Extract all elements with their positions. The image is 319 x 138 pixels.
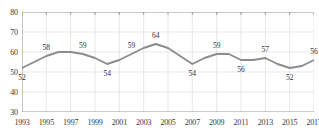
x-tick-label: 2017 bbox=[306, 118, 319, 127]
line-chart: 304050607080 525859545964545956575256 19… bbox=[0, 0, 319, 138]
data-point-label: 52 bbox=[286, 73, 294, 82]
data-point-label: 54 bbox=[103, 69, 111, 78]
x-tick-label: 2005 bbox=[160, 118, 175, 127]
y-tick-label: 40 bbox=[10, 88, 18, 97]
data-point-label: 64 bbox=[152, 31, 160, 40]
x-tick-label: 1999 bbox=[87, 118, 102, 127]
x-tick-label: 2001 bbox=[112, 118, 127, 127]
chart-canvas bbox=[22, 12, 314, 112]
data-point-label: 59 bbox=[79, 41, 87, 50]
y-tick-label: 70 bbox=[10, 28, 18, 37]
plot-area: 525859545964545956575256 bbox=[22, 12, 314, 112]
x-tick-label: 2011 bbox=[234, 118, 249, 127]
x-tick-label: 1995 bbox=[39, 118, 54, 127]
x-axis-labels: 1993199519971999200120032005200720092011… bbox=[22, 118, 314, 132]
x-tick-label: 1993 bbox=[14, 118, 29, 127]
x-tick-label: 2009 bbox=[209, 118, 224, 127]
x-tick-label: 2007 bbox=[185, 118, 200, 127]
data-point-label: 56 bbox=[310, 47, 318, 56]
y-axis-labels: 304050607080 bbox=[0, 12, 20, 112]
x-tick-label: 2015 bbox=[282, 118, 297, 127]
y-tick-label: 80 bbox=[10, 8, 18, 17]
data-point-label: 58 bbox=[43, 43, 51, 52]
data-point-label: 59 bbox=[128, 41, 136, 50]
data-point-label: 59 bbox=[213, 41, 221, 50]
data-point-label: 57 bbox=[262, 45, 270, 54]
x-tick-label: 1997 bbox=[63, 118, 78, 127]
data-point-label: 52 bbox=[18, 73, 26, 82]
x-tick-label: 2013 bbox=[258, 118, 273, 127]
data-point-label: 56 bbox=[237, 65, 245, 74]
y-tick-label: 60 bbox=[10, 48, 18, 57]
y-tick-label: 30 bbox=[10, 108, 18, 117]
y-tick-label: 50 bbox=[10, 68, 18, 77]
x-tick-label: 2003 bbox=[136, 118, 151, 127]
data-point-label: 54 bbox=[189, 69, 197, 78]
